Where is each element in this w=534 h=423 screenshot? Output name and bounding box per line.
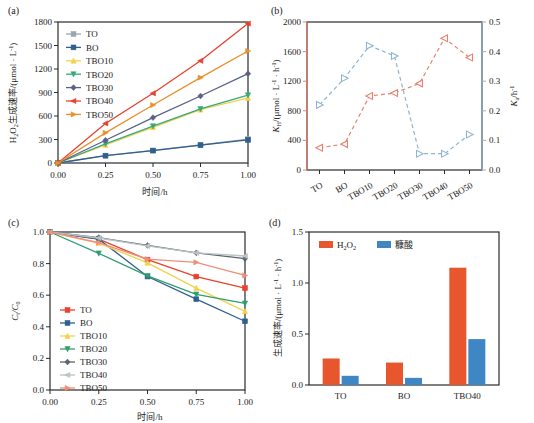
legend-label-TBO30: TBO30 xyxy=(86,83,114,93)
panel-a: (a) 0 300 600 900 1200 1500 1800 xyxy=(0,0,267,212)
bar-H2O2-BO xyxy=(386,363,403,385)
panel-b-xtick-4: TBO30 xyxy=(396,180,425,202)
panel-a-xtick-4: 1.00 xyxy=(240,170,256,180)
panel-b-ytick-left-2: 800 xyxy=(288,106,302,116)
panel-d-y-axis: 0.0 0.5 1.0 1.5 xyxy=(292,227,309,390)
panel-b-xtick-5: TBO40 xyxy=(421,180,450,202)
panel-b-xtick-2: TBO10 xyxy=(346,180,375,202)
panel-b-ylabel-right-sup: -1 xyxy=(508,86,515,91)
legend-label-TBO30: TBO30 xyxy=(80,357,108,367)
legend-label-TBO40: TBO40 xyxy=(80,370,108,380)
panel-b-ytick-right-0: 0.0 xyxy=(489,165,501,175)
bar-糠酸-BO xyxy=(405,378,422,385)
legend-label-TO: TO xyxy=(86,29,98,39)
panel-b-ytick-left-0: 0 xyxy=(297,165,302,175)
legend-label-TBO50: TBO50 xyxy=(86,110,114,120)
panel-a-xtick-0: 0.00 xyxy=(50,170,66,180)
panel-a-ytick-5: 1500 xyxy=(34,41,53,51)
panel-c-ytick-4: 0.8 xyxy=(33,259,45,269)
legend-label-TO: TO xyxy=(80,305,92,315)
panel-d-svg: (d) 0.0 0.5 1.0 1.5 TOBOTBO40 生成速率/(μmol… xyxy=(267,210,534,423)
svg-text:Ct/C0: Ct/C0 xyxy=(10,301,21,320)
panel-b-right-axis: 0.0 0.1 0.2 0.3 0.4 0.5 xyxy=(482,17,501,175)
panel-d-ylabel-main: 生成速率/(μmol · L xyxy=(272,284,283,357)
panel-b-ytick-left-1: 400 xyxy=(288,135,302,145)
svg-text:KH/(μmol · L-1 · h-1): KH/(μmol · L-1 · h-1) xyxy=(270,59,282,133)
panel-b-ylabel-left-mid: · h xyxy=(271,67,281,79)
panel-d-xtick-0: TO xyxy=(335,391,347,401)
legend-label-1: 糠酸 xyxy=(395,239,413,250)
panel-b-ytick-right-2: 0.2 xyxy=(489,106,500,116)
legend-swatch-0 xyxy=(319,241,333,248)
panel-c-y-axis: 0.0 0.2 0.4 0.6 0.8 1.0 xyxy=(33,227,50,395)
panel-a-x-axis: 0.00 0.25 0.50 0.75 1.00 xyxy=(50,163,256,180)
legend-label-BO: BO xyxy=(80,318,93,328)
panel-c-svg: (c) 0.0 0.2 0.4 0.6 0.8 1.0 xyxy=(0,210,267,423)
panel-c-xtick-4: 1.00 xyxy=(237,397,253,407)
data-marker xyxy=(194,274,199,279)
data-marker xyxy=(71,32,76,37)
panel-c-x-axis: 0.00 0.25 0.50 0.75 1.00 xyxy=(42,390,253,407)
legend-label-TBO40: TBO40 xyxy=(86,96,114,106)
figure-container: (a) 0 300 600 900 1200 1500 1800 xyxy=(0,0,534,423)
panel-d: (d) 0.0 0.5 1.0 1.5 TOBOTBO40 生成速率/(μmol… xyxy=(267,210,534,423)
panel-c-label: (c) xyxy=(8,217,19,229)
data-marker xyxy=(71,45,76,50)
panel-c-xtick-0: 0.00 xyxy=(42,397,58,407)
panel-a-xtick-3: 0.75 xyxy=(193,170,209,180)
panel-b-left-axis: 0 400 800 1200 1600 2000 xyxy=(283,17,307,175)
panel-b-svg: (b) 0 400 800 1200 1600 2000 xyxy=(267,0,534,212)
bar-H2O2-TBO40 xyxy=(449,268,466,385)
panel-c-ytick-2: 0.4 xyxy=(33,322,45,332)
panel-b: (b) 0 400 800 1200 1600 2000 xyxy=(267,0,534,212)
panel-a-ytick-1: 300 xyxy=(39,135,53,145)
panel-d-label: (d) xyxy=(269,217,281,229)
svg-text:生成速率/(μmol · L-1 · h-1): 生成速率/(μmol · L-1 · h-1) xyxy=(272,259,283,358)
panel-a-label: (a) xyxy=(8,5,19,17)
panel-c-ytick-1: 0.2 xyxy=(33,353,44,363)
data-marker xyxy=(151,148,156,153)
legend-label-TBO10: TBO10 xyxy=(80,331,108,341)
panel-a-xlabel: 时间/h xyxy=(142,186,168,197)
panel-d-xtick-1: BO xyxy=(398,391,411,401)
bar-糠酸-TO xyxy=(342,376,359,385)
panel-c-xlabel: 时间/h xyxy=(137,411,163,422)
panel-b-ylabel-left: KH/(μmol · L-1 · h-1) xyxy=(270,59,282,133)
panel-b-ytick-right-5: 0.5 xyxy=(489,17,501,27)
panel-d-ytick-1: 0.5 xyxy=(292,329,304,339)
legend-label-TBO50: TBO50 xyxy=(80,383,108,393)
panel-b-ytick-left-5: 2000 xyxy=(283,17,302,27)
legend-label-TBO20: TBO20 xyxy=(86,70,114,80)
data-marker xyxy=(65,308,70,313)
panel-b-x-axis: TOBOTBO10TBO20TBO30TBO40TBO50 xyxy=(309,170,475,202)
data-marker xyxy=(243,319,248,324)
panel-b-plot-frame xyxy=(307,22,482,170)
panel-b-xtick-6: TBO50 xyxy=(446,180,475,202)
panel-a-ytick-6: 1800 xyxy=(34,17,53,27)
panel-a-ylabel-end: ) xyxy=(8,43,18,46)
panel-a-xtick-2: 0.50 xyxy=(145,170,161,180)
bar-H2O2-TO xyxy=(323,358,340,385)
legend-label-TBO10: TBO10 xyxy=(86,56,114,66)
data-marker xyxy=(198,143,203,148)
panel-a-ytick-2: 600 xyxy=(39,111,53,121)
panel-b-ytick-right-1: 0.1 xyxy=(489,135,500,145)
panel-c-xtick-2: 0.50 xyxy=(140,397,156,407)
panel-c-ylabel-sub2: 0 xyxy=(14,301,21,304)
svg-text:Ka/h-1: Ka/h-1 xyxy=(508,86,520,108)
panel-b-ylabel-left-rest: /(μmol · L xyxy=(271,85,281,122)
panel-d-ylabel: 生成速率/(μmol · L-1 · h-1) xyxy=(272,259,283,358)
panel-c-xtick-3: 0.75 xyxy=(188,397,204,407)
panel-d-x-axis: TOBOTBO40 xyxy=(335,391,482,401)
data-marker xyxy=(246,137,251,142)
panel-c-ytick-3: 0.6 xyxy=(33,290,45,300)
panel-a-xtick-1: 0.25 xyxy=(98,170,114,180)
panel-d-ytick-0: 0.0 xyxy=(292,380,304,390)
panel-b-ylabel-left-end: ) xyxy=(271,59,281,62)
legend-label-TBO20: TBO20 xyxy=(80,344,108,354)
data-marker xyxy=(65,321,70,326)
panel-c-ylabel: Ct/C0 xyxy=(10,301,21,320)
panel-b-ytick-right-3: 0.3 xyxy=(489,76,501,86)
panel-a-ytick-0: 0 xyxy=(48,158,53,168)
bar-糠酸-TBO40 xyxy=(468,339,485,385)
